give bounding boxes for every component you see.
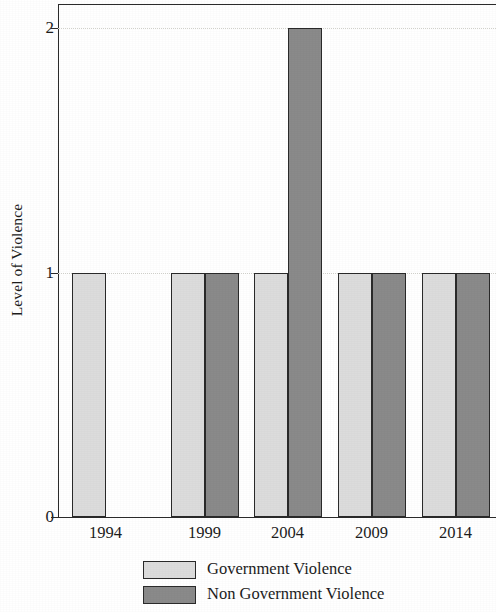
x-tick-label-1994: 1994 xyxy=(66,524,146,542)
bar-2004-government xyxy=(254,273,288,517)
legend-swatch-icon xyxy=(143,586,196,604)
y-tick-mark-0 xyxy=(51,517,58,518)
x-tick-label-2009: 2009 xyxy=(332,524,412,542)
legend-label: Non Government Violence xyxy=(207,586,384,603)
x-tick-label-1999: 1999 xyxy=(165,524,245,542)
bar-2014-non-government xyxy=(456,273,490,517)
y-axis-tick-labels: 210 xyxy=(28,0,54,612)
legend-label: Government Violence xyxy=(207,561,352,578)
bar-2004-non-government xyxy=(288,28,322,517)
bar-2014-government xyxy=(422,273,456,517)
bar-1999-government xyxy=(171,273,205,517)
plot-area xyxy=(58,4,496,517)
axis-spine-left xyxy=(58,4,59,517)
gridline-2 xyxy=(58,28,496,29)
legend-item-non-government-violence: Non Government Violence xyxy=(143,582,496,607)
chart-legend: Government ViolenceNon Government Violen… xyxy=(143,557,496,607)
bar-2009-non-government xyxy=(372,273,406,517)
axis-spine-top xyxy=(58,4,496,5)
legend-item-government-violence: Government Violence xyxy=(143,557,496,582)
x-axis-tick-labels: 19941999200420092014 xyxy=(0,524,496,550)
y-axis-title-text: Level of Violence xyxy=(8,204,26,316)
bar-2009-government xyxy=(338,273,372,517)
bar-chart-figure: Level of Violence 210 199419992004200920… xyxy=(0,0,496,612)
bar-1994-government xyxy=(72,273,106,517)
y-tick-mark-2 xyxy=(51,28,58,29)
y-tick-mark-1 xyxy=(51,273,58,274)
bar-1999-non-government xyxy=(205,273,239,517)
axis-spine-bottom xyxy=(52,517,496,518)
x-tick-label-2004: 2004 xyxy=(248,524,328,542)
x-tick-label-2014: 2014 xyxy=(416,524,496,542)
legend-swatch-icon xyxy=(143,561,196,579)
